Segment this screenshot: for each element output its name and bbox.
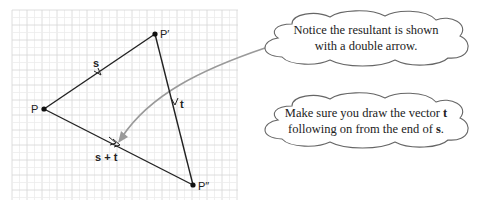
label-vector-s-plus-t: s + t <box>95 151 118 163</box>
pointer-arrowhead-icon <box>118 131 128 143</box>
label-vector-s: s <box>93 57 99 69</box>
vector-t-line <box>155 34 193 185</box>
note-resultant-line-2: with a double arrow. <box>315 39 418 53</box>
note-resultant-line-1: Notice the resultant is shown <box>293 23 439 37</box>
note-vector-t-line-1: Make sure you draw the vector t <box>285 106 448 120</box>
thought-cloud-vector-t <box>265 93 468 148</box>
label-vector-t: t <box>180 98 184 110</box>
graph-paper-grid <box>12 10 238 200</box>
label-P: P <box>31 103 38 115</box>
point-P <box>41 106 46 111</box>
label-P-prime: P′ <box>160 28 169 40</box>
point-P-double-prime <box>190 182 195 187</box>
vector-s-plus-t-line <box>44 109 193 185</box>
note-vector-t-line-2: following on from the end of s. <box>288 122 444 136</box>
point-P-prime <box>152 31 157 36</box>
vector-diagram: P P′ P″ s t s + t Notice the resultant i… <box>0 0 477 208</box>
label-P-double-prime: P″ <box>198 180 209 192</box>
